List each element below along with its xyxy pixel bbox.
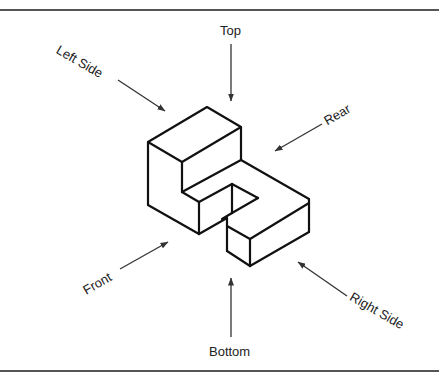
tall-block-top-face	[148, 107, 241, 162]
right-side-arrow	[298, 262, 347, 296]
isometric-object	[148, 107, 309, 266]
diagram-frame: Top Bottom Left Side Rear Front Right Si…	[0, 0, 439, 378]
label-top: Top	[220, 24, 241, 37]
rear-arrow	[275, 124, 322, 151]
front-arrow	[120, 242, 168, 269]
label-bottom: Bottom	[209, 345, 250, 358]
left-side-arrow	[118, 80, 165, 111]
